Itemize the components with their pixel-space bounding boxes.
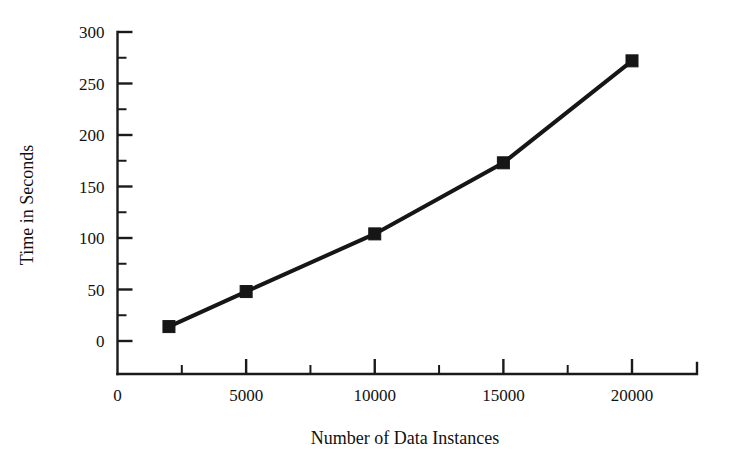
x-axis-title: Number of Data Instances: [311, 428, 499, 448]
chart-container: 050100150200250300 05000100001500020000 …: [0, 0, 733, 468]
x-tick-label-20000: 20000: [611, 386, 654, 405]
x-tick-label-0: 0: [113, 386, 122, 405]
y-tick-label-300: 300: [79, 23, 105, 42]
data-point-15000: [497, 157, 509, 169]
data-point-5000: [240, 286, 252, 298]
data-point-10000: [369, 228, 381, 240]
y-tick-label-250: 250: [79, 75, 105, 94]
x-tick-label-10000: 10000: [354, 386, 397, 405]
x-tick-label-15000: 15000: [482, 386, 525, 405]
y-tick-label-100: 100: [79, 229, 105, 248]
line-chart: 050100150200250300 05000100001500020000 …: [0, 0, 733, 468]
y-tick-label-0: 0: [96, 332, 105, 351]
x-tick-label-5000: 5000: [229, 386, 263, 405]
data-point-20000: [626, 55, 638, 67]
y-tick-label-200: 200: [79, 126, 105, 145]
y-tick-label-50: 50: [88, 281, 105, 300]
y-tick-label-150: 150: [79, 178, 105, 197]
y-axis-title: Time in Seconds: [17, 145, 37, 265]
data-point-2000: [163, 321, 175, 333]
